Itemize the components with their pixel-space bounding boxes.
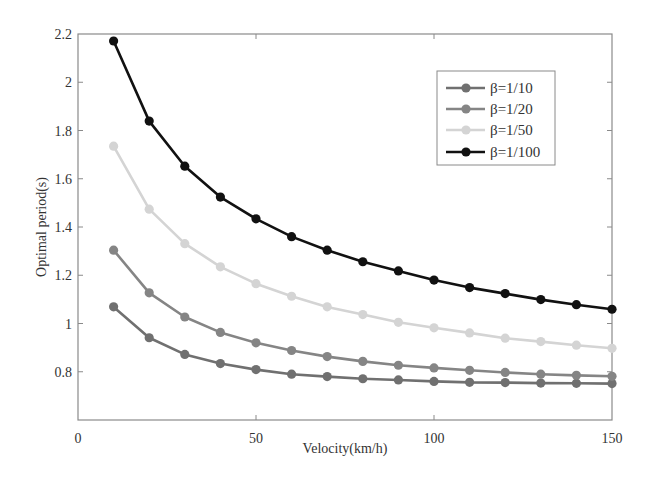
data-point-marker	[287, 232, 296, 241]
data-point-marker	[429, 323, 438, 332]
data-point-marker	[394, 361, 403, 370]
data-point-marker	[572, 379, 581, 388]
data-point-marker	[536, 295, 545, 304]
data-point-marker	[287, 346, 296, 355]
x-tick-label: 0	[75, 431, 82, 446]
data-point-marker	[109, 142, 118, 151]
x-axis-label: Velocity(km/h)	[303, 441, 388, 457]
data-point-marker	[109, 246, 118, 255]
legend: β=1/10β=1/20β=1/50β=1/100	[437, 71, 555, 165]
y-tick-label: 1.6	[55, 172, 73, 187]
data-point-marker	[358, 374, 367, 383]
data-point-marker	[501, 334, 510, 343]
data-point-marker	[465, 366, 474, 375]
data-point-marker	[287, 292, 296, 301]
data-point-marker	[536, 337, 545, 346]
data-point-marker	[251, 214, 260, 223]
data-point-marker	[394, 375, 403, 384]
y-tick-label: 1	[65, 317, 72, 332]
legend-marker-icon	[461, 104, 470, 113]
data-point-marker	[323, 302, 332, 311]
data-point-marker	[429, 275, 438, 284]
legend-marker-icon	[461, 125, 470, 134]
data-point-marker	[216, 359, 225, 368]
legend-label: β=1/20	[490, 101, 533, 117]
y-tick-label: 1.4	[55, 220, 73, 235]
x-tick-label: 50	[249, 431, 263, 446]
data-point-marker	[109, 302, 118, 311]
y-tick-label: 1.8	[55, 124, 73, 139]
data-point-marker	[465, 378, 474, 387]
data-point-marker	[607, 344, 616, 353]
data-point-marker	[358, 257, 367, 266]
data-point-marker	[145, 116, 154, 125]
data-point-marker	[394, 318, 403, 327]
data-point-marker	[465, 283, 474, 292]
y-tick-label: 2.2	[55, 27, 73, 42]
x-tick-label: 100	[424, 431, 445, 446]
line-chart: 0501001500.811.21.41.61.822.2 β=1/10β=1/…	[0, 0, 654, 483]
data-point-marker	[216, 262, 225, 271]
data-point-marker	[216, 328, 225, 337]
data-point-marker	[323, 352, 332, 361]
data-point-marker	[287, 370, 296, 379]
data-point-marker	[572, 300, 581, 309]
y-axis-label: Optimal period(s)	[34, 177, 50, 277]
data-point-marker	[180, 312, 189, 321]
data-point-marker	[572, 371, 581, 380]
data-point-marker	[251, 338, 260, 347]
data-point-marker	[180, 239, 189, 248]
data-point-marker	[358, 357, 367, 366]
data-point-marker	[323, 246, 332, 255]
x-tick-label: 150	[602, 431, 623, 446]
data-point-marker	[465, 328, 474, 337]
data-point-marker	[429, 377, 438, 386]
data-point-marker	[109, 36, 118, 45]
data-point-marker	[607, 372, 616, 381]
data-point-marker	[145, 205, 154, 214]
legend-label: β=1/50	[490, 122, 533, 138]
data-point-marker	[572, 341, 581, 350]
legend-marker-icon	[461, 147, 470, 156]
y-tick-label: 2	[65, 75, 72, 90]
data-point-marker	[145, 288, 154, 297]
data-point-marker	[607, 305, 616, 314]
data-point-marker	[180, 350, 189, 359]
data-point-marker	[251, 365, 260, 374]
data-point-marker	[145, 333, 154, 342]
chart-container: 0501001500.811.21.41.61.822.2 β=1/10β=1/…	[0, 0, 654, 483]
data-point-marker	[394, 266, 403, 275]
y-tick-label: 0.8	[55, 365, 73, 380]
data-point-marker	[323, 372, 332, 381]
data-point-marker	[501, 378, 510, 387]
data-point-marker	[251, 279, 260, 288]
legend-label: β=1/10	[490, 80, 533, 96]
legend-label: β=1/100	[490, 144, 540, 160]
legend-marker-icon	[461, 83, 470, 92]
data-point-marker	[501, 289, 510, 298]
data-point-marker	[216, 192, 225, 201]
data-point-marker	[536, 370, 545, 379]
data-point-marker	[501, 368, 510, 377]
data-point-marker	[358, 310, 367, 319]
y-tick-label: 1.2	[55, 268, 73, 283]
data-point-marker	[180, 162, 189, 171]
data-point-marker	[536, 378, 545, 387]
data-point-marker	[429, 363, 438, 372]
